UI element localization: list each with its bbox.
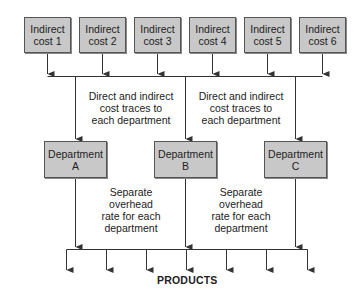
- box-label-line2: cost 2: [85, 35, 119, 47]
- dept-label-line1: Department: [268, 148, 323, 160]
- rate-label-line1: Separate: [86, 186, 176, 198]
- rate-label-line2: overhead: [196, 198, 286, 210]
- department-b-box: DepartmentB: [154, 141, 217, 178]
- trace-label-line2: cost traces to: [196, 102, 286, 114]
- indirect-cost-2-box: Indirectcost 2: [79, 17, 126, 53]
- box-label-line1: Indirect: [140, 23, 174, 35]
- rate-label-left: Separate overhead rate for each departme…: [86, 186, 176, 234]
- box-label-line1: Indirect: [30, 23, 64, 35]
- box-label-line2: cost 1: [30, 35, 64, 47]
- box-label-line2: cost 5: [250, 35, 284, 47]
- trace-label-line2: cost traces to: [86, 102, 176, 114]
- department-c-box: DepartmentC: [264, 141, 327, 178]
- box-label-line2: cost 4: [195, 35, 229, 47]
- box-label-line2: cost 6: [305, 35, 339, 47]
- trace-label-right: Direct and indirect cost traces to each …: [196, 90, 286, 126]
- rate-label-line4: department: [86, 222, 176, 234]
- rate-label-line2: overhead: [86, 198, 176, 210]
- trace-label-line1: Direct and indirect: [86, 90, 176, 102]
- trace-label-left: Direct and indirect cost traces to each …: [86, 90, 176, 126]
- indirect-cost-6-box: Indirectcost 6: [299, 17, 346, 53]
- box-label-line1: Indirect: [85, 23, 119, 35]
- rate-label-line3: rate for each: [86, 210, 176, 222]
- dept-label-line2: C: [268, 160, 323, 172]
- rate-label-right: Separate overhead rate for each departme…: [196, 186, 286, 234]
- department-a-box: DepartmentA: [44, 141, 107, 178]
- dept-label-line2: B: [158, 160, 213, 172]
- indirect-cost-3-box: Indirectcost 3: [134, 17, 181, 53]
- products-label: PRODUCTS: [157, 274, 217, 286]
- trace-label-line3: each department: [196, 114, 286, 126]
- dept-label-line1: Department: [158, 148, 213, 160]
- box-label-line1: Indirect: [250, 23, 284, 35]
- rate-label-line1: Separate: [196, 186, 286, 198]
- trace-label-line1: Direct and indirect: [196, 90, 286, 102]
- indirect-cost-1-box: Indirectcost 1: [24, 17, 71, 53]
- rate-label-line3: rate for each: [196, 210, 286, 222]
- dept-label-line1: Department: [48, 148, 103, 160]
- box-label-line2: cost 3: [140, 35, 174, 47]
- indirect-cost-4-box: Indirectcost 4: [189, 17, 236, 53]
- indirect-cost-5-box: Indirectcost 5: [244, 17, 291, 53]
- dept-label-line2: A: [48, 160, 103, 172]
- trace-label-line3: each department: [86, 114, 176, 126]
- rate-label-line4: department: [196, 222, 286, 234]
- box-label-line1: Indirect: [305, 23, 339, 35]
- box-label-line1: Indirect: [195, 23, 229, 35]
